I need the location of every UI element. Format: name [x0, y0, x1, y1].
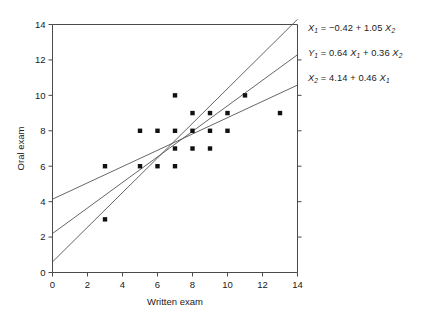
regression-line	[53, 55, 298, 234]
data-point-marker	[190, 129, 194, 133]
y-tick-label: 6	[40, 161, 45, 172]
regression-lines-group	[53, 19, 298, 262]
y-tick-label: 10	[35, 90, 46, 101]
y-axis-title: Oral exam	[15, 127, 26, 171]
data-point-marker	[173, 164, 177, 168]
axis-labels-group: 0246810121402468101214Written examOral e…	[15, 19, 303, 307]
y-tick-label: 14	[35, 19, 46, 30]
data-point-marker	[208, 111, 212, 115]
data-point-marker	[190, 111, 194, 115]
data-point-marker	[173, 146, 177, 150]
y-tick-label: 12	[35, 54, 46, 65]
data-point-marker	[103, 164, 107, 168]
y-tick-label: 4	[40, 196, 45, 207]
data-point-marker	[225, 129, 229, 133]
regression-line	[53, 19, 298, 262]
data-point-marker	[190, 146, 194, 150]
data-point-marker	[103, 217, 107, 221]
x-tick-label: 0	[50, 279, 55, 290]
x-tick-label: 4	[120, 279, 125, 290]
x-tick-label: 6	[155, 279, 160, 290]
data-point-marker	[208, 146, 212, 150]
y-tick-label: 2	[40, 231, 45, 242]
annotation-eq-x1-text: X1 = −0.42 + 1.05 X2	[308, 23, 395, 33]
x-axis-title: Written exam	[147, 296, 203, 307]
data-point-marker	[155, 129, 159, 133]
regression-line	[53, 85, 298, 199]
data-point-marker	[278, 111, 282, 115]
data-point-marker	[138, 129, 142, 133]
annotation-eq-y1: Y1 = 0.64 X1 + 0.36 X2	[308, 49, 402, 59]
annotation-eq-x1: X1 = −0.42 + 1.05 X2	[308, 24, 395, 34]
x-tick-label: 12	[257, 279, 268, 290]
annotation-eq-x2-text: X2 = 4.14 + 0.46 X1	[308, 73, 390, 83]
x-tick-label: 10	[222, 279, 233, 290]
data-point-marker	[173, 93, 177, 97]
x-tick-label: 14	[292, 279, 303, 290]
scatter-figure: 0246810121402468101214Written examOral e…	[0, 0, 425, 326]
data-point-marker	[225, 111, 229, 115]
annotation-eq-y1-text: Y1 = 0.64 X1 + 0.36 X2	[308, 48, 402, 58]
y-tick-label: 0	[40, 267, 45, 278]
data-point-marker	[138, 164, 142, 168]
x-tick-label: 8	[190, 279, 195, 290]
data-point-marker	[155, 164, 159, 168]
data-point-marker	[173, 129, 177, 133]
data-points-group	[103, 93, 282, 221]
data-point-marker	[243, 93, 247, 97]
data-point-marker	[208, 129, 212, 133]
annotation-eq-x2: X2 = 4.14 + 0.46 X1	[308, 74, 390, 84]
x-tick-label: 2	[85, 279, 90, 290]
y-tick-label: 8	[40, 125, 45, 136]
